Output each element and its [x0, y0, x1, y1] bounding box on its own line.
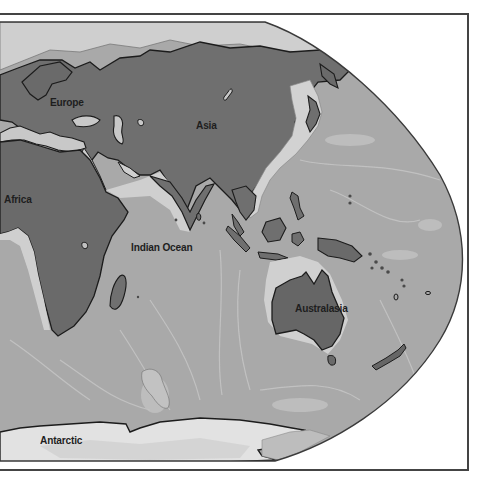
label-africa: Africa: [4, 193, 32, 205]
aral-sea: [138, 119, 144, 125]
label-antarctic: Antarctic: [40, 434, 82, 446]
lake-victoria: [82, 242, 88, 248]
label-asia: Asia: [196, 119, 217, 131]
sri-lanka: [197, 213, 201, 220]
label-australasia: Australasia: [295, 302, 348, 314]
world-map: [0, 0, 487, 483]
label-europe: Europe: [50, 96, 84, 108]
tasmania: [328, 355, 336, 365]
label-indian-ocean: Indian Ocean: [131, 241, 192, 253]
